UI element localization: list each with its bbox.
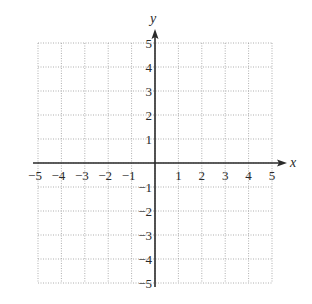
y-tick-label: 3 (146, 84, 153, 99)
y-tick-label: −4 (138, 252, 152, 267)
x-tick-label: 2 (199, 168, 206, 183)
x-tick-label: −2 (98, 168, 112, 183)
x-tick-label: −5 (28, 168, 42, 183)
y-tick-label: −1 (138, 180, 152, 195)
x-tick-label: −3 (75, 168, 89, 183)
x-tick-label: −1 (122, 168, 136, 183)
x-tick-label: −4 (51, 168, 65, 183)
y-tick-label: −3 (138, 228, 152, 243)
axes: x y (33, 11, 297, 287)
x-tick-label: 1 (175, 168, 182, 183)
y-tick-label: 1 (146, 132, 153, 147)
y-tick-label: 2 (146, 108, 153, 123)
y-tick-label: −2 (138, 204, 152, 219)
y-axis-label: y (148, 11, 157, 26)
x-tick-label: 5 (269, 168, 276, 183)
y-tick-label: −5 (138, 276, 152, 291)
x-tick-label: 4 (245, 168, 252, 183)
y-tick-label: 5 (146, 36, 153, 51)
y-tick-label: 4 (146, 60, 153, 75)
x-tick-label: 3 (222, 168, 229, 183)
x-axis-label: x (289, 155, 297, 170)
coordinate-plane: x y −5−4−3−2−112345 −5−4−3−2−112345 (0, 0, 312, 304)
